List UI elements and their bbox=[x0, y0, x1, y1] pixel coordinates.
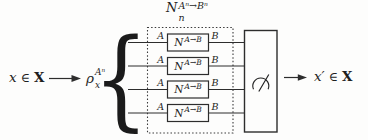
row4-channel-sup: A→B bbox=[184, 106, 201, 114]
row3-input-system-label: A bbox=[150, 78, 164, 88]
bank-label-scripts: Aⁿ→Bⁿ n bbox=[178, 1, 208, 22]
row2-input-system-label: A bbox=[150, 55, 164, 65]
row4-input-system-label: A bbox=[150, 102, 164, 112]
row4-channel-box-label: N A→B bbox=[168, 105, 209, 122]
row1-channel-box-label: N A→B bbox=[168, 34, 209, 51]
row1-channel-sup: A→B bbox=[184, 35, 201, 43]
quantum-channel-discrimination-diagram: x ∈ X ρ Aⁿ x { N Aⁿ→Bⁿ n A N A→B B A N A… bbox=[0, 0, 368, 140]
row2-channel-box-label: N A→B bbox=[168, 58, 209, 75]
row3-channel-sup: A→B bbox=[184, 82, 201, 90]
bank-label-base: N bbox=[166, 1, 177, 14]
row3-channel-base: N bbox=[174, 84, 183, 95]
brace: { bbox=[111, 25, 131, 132]
row2-channel-sup: A→B bbox=[184, 59, 201, 67]
input-variable: x bbox=[9, 71, 17, 85]
row1-channel-base: N bbox=[174, 37, 183, 48]
output-arrow bbox=[284, 74, 307, 81]
row2-channel-base: N bbox=[174, 61, 183, 72]
element-of-symbol: ∈ bbox=[21, 72, 30, 85]
row1-input-system-label: A bbox=[150, 31, 164, 41]
input-label: x ∈ X bbox=[9, 71, 44, 85]
output-label: x′ ∈ X bbox=[314, 70, 352, 84]
row3-output-system-label: B bbox=[212, 78, 226, 88]
bank-label-superscript: Aⁿ→Bⁿ bbox=[178, 1, 208, 11]
row4-output-system-label: B bbox=[212, 102, 226, 112]
input-set: X bbox=[34, 71, 44, 85]
row1-output-system-label: B bbox=[212, 31, 226, 41]
row3-channel-box-label: N A→B bbox=[168, 81, 209, 98]
output-variable: x′ bbox=[314, 70, 325, 84]
bank-label-subscript: n bbox=[178, 13, 208, 23]
element-of-symbol: ∈ bbox=[329, 71, 338, 84]
channel-bank-label: N Aⁿ→Bⁿ n bbox=[166, 1, 208, 22]
input-arrow bbox=[49, 75, 81, 82]
output-set: X bbox=[342, 70, 352, 84]
measurement-box bbox=[245, 31, 278, 133]
row4-channel-base: N bbox=[174, 108, 183, 119]
row2-output-system-label: B bbox=[212, 55, 226, 65]
